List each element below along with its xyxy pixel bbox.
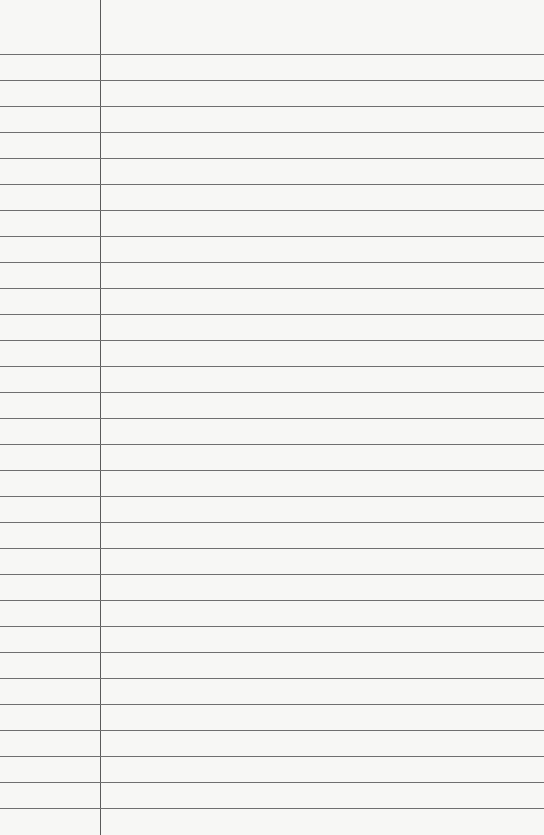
rule-line (0, 574, 544, 575)
rule-line (0, 392, 544, 393)
rule-line (0, 444, 544, 445)
rule-line (0, 366, 544, 367)
rule-line (0, 340, 544, 341)
rule-line (0, 184, 544, 185)
rule-line (0, 652, 544, 653)
rule-line (0, 600, 544, 601)
rule-line (0, 158, 544, 159)
rule-line (0, 106, 544, 107)
rule-line (0, 496, 544, 497)
rule-line (0, 470, 544, 471)
rule-line (0, 678, 544, 679)
rule-line (0, 548, 544, 549)
rule-line (0, 236, 544, 237)
rule-line (0, 262, 544, 263)
lined-paper (0, 0, 544, 835)
rule-line (0, 80, 544, 81)
rule-line (0, 626, 544, 627)
rule-line (0, 288, 544, 289)
rule-line (0, 782, 544, 783)
rule-line (0, 132, 544, 133)
rule-line (0, 756, 544, 757)
rule-line (0, 704, 544, 705)
rule-line (0, 210, 544, 211)
rule-line (0, 522, 544, 523)
rule-line (0, 54, 544, 55)
rule-line (0, 314, 544, 315)
rule-line (0, 808, 544, 809)
rule-line (0, 418, 544, 419)
rule-line (0, 730, 544, 731)
